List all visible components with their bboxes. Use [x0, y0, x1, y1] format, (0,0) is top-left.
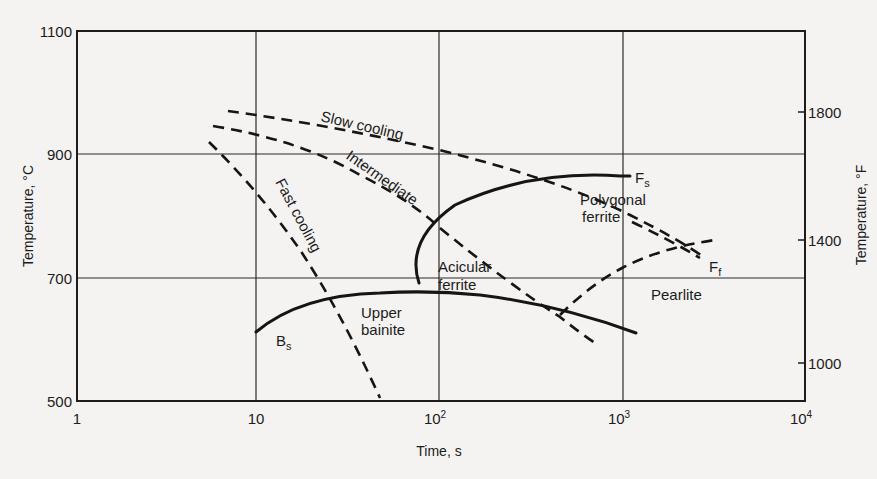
label-polygonal: Polygonal: [580, 191, 646, 208]
y-tick-1100: 1100: [40, 23, 72, 40]
label-fs: Fs: [635, 169, 650, 189]
label-slow-cooling: Slow cooling: [319, 107, 405, 143]
cct-diagram: 1100 900 700 500 1800 1400 1000 1 10 102…: [0, 0, 877, 479]
label-upper-bainite: bainite: [361, 321, 405, 338]
y-left-tick-labels: 1100 900 700 500: [40, 23, 72, 410]
label-acicular-ferrite: ferrite: [438, 276, 476, 293]
label-upper: Upper: [361, 304, 402, 321]
label-fast-cooling: Fast cooling: [272, 175, 325, 254]
x-tick-labels: 1 10 102 103 104: [73, 409, 813, 427]
y-right-tick-1000: 1000: [808, 355, 841, 372]
x-axis-title: Time, s: [416, 443, 461, 459]
label-pearlite: Pearlite: [651, 286, 702, 303]
y-right-tick-1400: 1400: [808, 232, 841, 249]
x-tick-10000: 104: [790, 409, 813, 427]
y-tick-900: 900: [47, 146, 72, 163]
label-intermediate: Intermediate: [343, 147, 421, 209]
fast-cooling-curve: [209, 142, 380, 398]
intermediate-cooling-curve: [213, 126, 598, 345]
y-left-axis-title: Temperature, °C: [20, 165, 36, 267]
label-acicular: Acicular: [438, 258, 491, 275]
x-tick-1: 1: [73, 410, 81, 427]
y-right-axis-title: Temperature, °F: [853, 165, 869, 266]
y-right-tick-1800: 1800: [808, 104, 841, 121]
y-right-tick-labels: 1800 1400 1000: [808, 104, 841, 372]
y-tick-500: 500: [47, 393, 72, 410]
ff-curve: [632, 222, 700, 258]
x-tick-10: 10: [248, 410, 265, 427]
label-bs: Bs: [276, 332, 292, 352]
x-tick-1000: 103: [608, 409, 631, 427]
y-tick-700: 700: [47, 270, 72, 287]
label-polygonal-ferrite: ferrite: [582, 208, 620, 225]
label-ff: Ff: [709, 258, 722, 278]
slow-cooling-curve: [228, 111, 705, 258]
right-axis-ticks: [798, 112, 805, 363]
x-tick-100: 102: [424, 409, 447, 427]
